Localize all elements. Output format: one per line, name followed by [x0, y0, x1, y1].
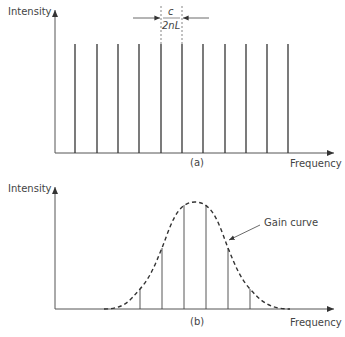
spacing-denominator: 2nL [162, 21, 180, 31]
panel-a-x-label: Frequency [290, 159, 342, 169]
panel-a-y-label: Intensity [8, 7, 52, 17]
spacing-numerator: c [168, 7, 174, 17]
panel-b-y-label: Intensity [8, 184, 52, 194]
panel-a-mode-lines [75, 44, 288, 153]
gain-curve-label: Gain curve [264, 218, 318, 228]
panel-b-x-label: Frequency [290, 318, 342, 328]
panel-a-caption: (a) [190, 158, 204, 168]
panel-b-mode-lines [140, 205, 250, 309]
panel-b-axes [55, 187, 334, 309]
gain-curve [104, 202, 290, 309]
panel-b-caption: (b) [190, 317, 204, 327]
gain-curve-pointer [229, 225, 260, 240]
